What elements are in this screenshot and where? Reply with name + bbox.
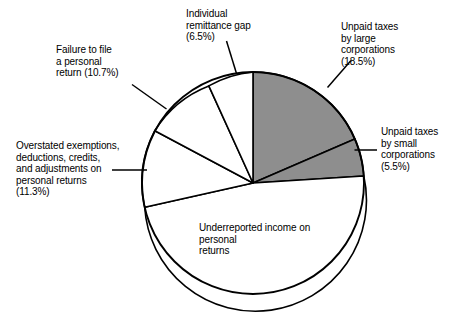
label-unpaid-taxes-small-corporations: Unpaid taxes by small corporations (5.5%… xyxy=(381,126,438,172)
label-unpaid-taxes-large-corporations: Unpaid taxes by large corporations (18.5… xyxy=(341,21,398,67)
leader-line-individual-remittance-gap xyxy=(227,41,237,74)
pie-chart-figure: Individual remittance gap (6.5%) Unpaid … xyxy=(0,0,462,313)
label-overstated-exemptions: Overstated exemptions, deductions, credi… xyxy=(16,140,119,198)
label-individual-remittance-gap: Individual remittance gap (6.5%) xyxy=(186,8,251,43)
label-underreported-income: Underreported income on personal returns xyxy=(199,222,310,257)
label-failure-to-file: Failure to file a personal return (10.7%… xyxy=(56,44,119,79)
leader-line-failure-to-file xyxy=(132,85,167,110)
